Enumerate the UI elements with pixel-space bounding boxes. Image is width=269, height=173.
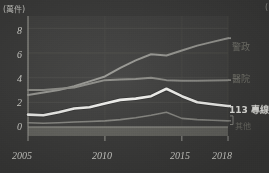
y-tick-2: 2 <box>8 97 22 108</box>
series-label-other: 其他 <box>235 120 251 131</box>
series-label-police: 警政 <box>232 40 250 53</box>
y-axis-unit-label: (萬件) <box>3 3 25 14</box>
chart-figure: (萬件) ( 8 6 4 2 0 2005 2010 2015 2018 警政 … <box>0 0 269 173</box>
x-tick-2005: 2005 <box>12 150 32 161</box>
x-tick-2018: 2018 <box>212 150 232 161</box>
y-tick-4: 4 <box>8 73 22 84</box>
y-tick-6: 6 <box>8 49 22 60</box>
x-tick-2010: 2010 <box>92 150 112 161</box>
y-tick-8: 8 <box>8 25 22 36</box>
chart-plot-area <box>0 0 269 173</box>
x-tick-2015: 2015 <box>170 150 190 161</box>
series-label-hotline: 113 專線 <box>229 103 269 116</box>
corner-paren-mark: ( <box>265 3 268 12</box>
series-label-hospital: 醫院 <box>232 72 250 85</box>
baseline-band <box>28 127 228 136</box>
y-tick-0: 0 <box>8 121 22 132</box>
